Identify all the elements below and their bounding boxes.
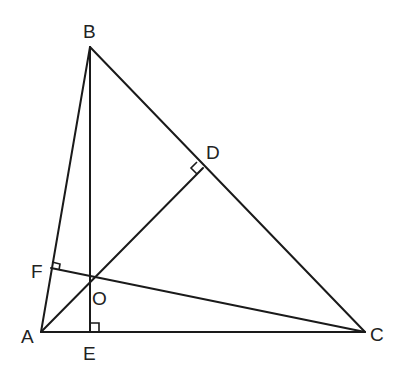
label-o: O xyxy=(92,289,107,308)
label-f: F xyxy=(31,262,43,281)
label-c: C xyxy=(370,325,384,344)
label-d: D xyxy=(206,143,220,162)
label-b: B xyxy=(83,22,96,41)
right-angle-mark-e xyxy=(90,323,99,332)
right-angle-mark-d xyxy=(191,162,197,174)
triangle-diagram xyxy=(0,0,402,379)
segment-bc xyxy=(90,47,365,332)
label-e: E xyxy=(83,344,96,363)
label-a: A xyxy=(21,327,34,346)
